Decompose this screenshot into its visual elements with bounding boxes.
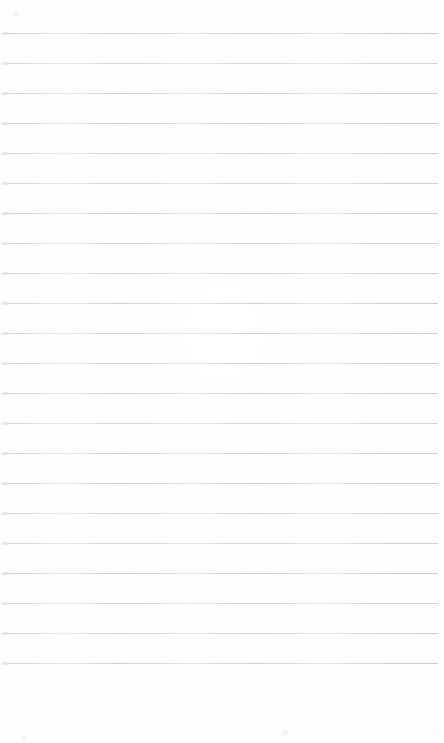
- scan-speck: [283, 730, 288, 735]
- rule-line: [5, 663, 438, 664]
- scan-speck: [22, 736, 26, 740]
- document-page: [0, 0, 444, 743]
- writing-area[interactable]: [5, 33, 438, 663]
- scan-speck: [14, 12, 19, 17]
- scan-speck: [430, 726, 434, 730]
